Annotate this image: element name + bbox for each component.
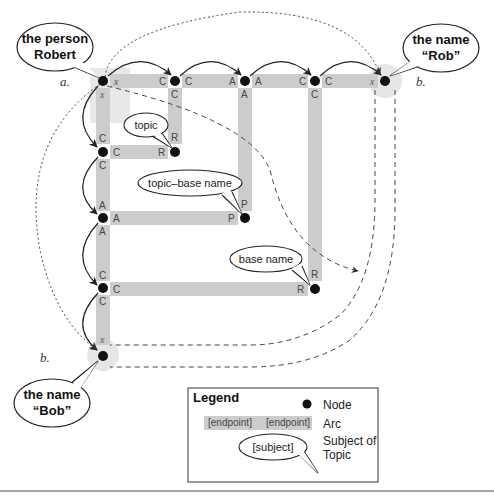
node (98, 283, 108, 293)
bubble-text: base name (239, 253, 293, 265)
label-x: x (369, 76, 375, 87)
label-R: R (158, 147, 165, 158)
legend: Legend Node [endpoint] [endpoint] Arc [s… (188, 388, 378, 482)
arc-A-P-horizontal (110, 211, 238, 225)
bubble-text: “Rob” (422, 48, 460, 63)
label-C: C (99, 270, 106, 281)
node (98, 213, 108, 223)
bubble-text: topic (134, 119, 158, 131)
bubble-text: topic–base name (148, 177, 232, 189)
label-C: C (185, 76, 192, 87)
label-A: A (99, 200, 106, 211)
node-base-name (310, 284, 320, 294)
bubble-base-name: base name (230, 246, 310, 285)
label-R: R (311, 269, 318, 280)
label-A: A (99, 226, 106, 237)
bubble-text: “Bob” (33, 403, 71, 418)
node (240, 76, 250, 86)
bubble-topic-base-name: topic–base name (138, 170, 242, 214)
label-x: x (113, 76, 119, 87)
label-C: C (99, 133, 106, 144)
node-b-rob (380, 76, 390, 86)
point-label-b-top: b. (416, 74, 426, 89)
node-b-bob (98, 351, 108, 361)
legend-arc-label: Arc (323, 417, 341, 431)
bubble-topic: topic (124, 113, 172, 148)
label-C: C (113, 147, 120, 158)
label-P: P (241, 199, 248, 210)
label-C: C (299, 76, 306, 87)
node (310, 76, 320, 86)
point-label-b-bottom: b. (40, 350, 50, 365)
label-A: A (241, 89, 248, 100)
legend-arc-right: [endpoint] (266, 417, 310, 428)
label-R: R (297, 284, 304, 295)
label-C: C (311, 89, 318, 100)
bubble-text: the person (22, 31, 89, 46)
legend-title: Legend (193, 390, 239, 405)
arc-C-R-long-vertical (308, 88, 322, 281)
label-A: A (113, 213, 120, 224)
legend-arc-left: [endpoint] (208, 417, 252, 428)
bubble-person-robert: the person Robert (17, 23, 100, 78)
bubble-name-rob: the name “Rob” (390, 24, 479, 76)
label-C: C (325, 76, 332, 87)
node-topic-base-name (240, 213, 250, 223)
label-P: P (228, 213, 235, 224)
label-C: C (99, 296, 106, 307)
bubble-name-bob: the name “Bob” (14, 361, 98, 427)
arc-C-R-long-horizontal (110, 282, 308, 296)
node (170, 76, 180, 86)
legend-node-icon (303, 400, 312, 409)
topic-map-diagram: x C C A A C C x x C C A A C C x C R C R … (0, 0, 494, 501)
label-C: C (113, 284, 120, 295)
legend-node-label: Node (323, 398, 352, 412)
bubble-text: the name (412, 32, 469, 47)
legend-subject-label-2: Topic (323, 448, 351, 462)
bubble-text: the name (23, 387, 80, 402)
label-x: x (99, 89, 105, 100)
bubble-text: Robert (34, 47, 77, 62)
legend-subject-label-1: Subject of (323, 434, 377, 448)
label-A: A (255, 76, 262, 87)
label-C: C (99, 160, 106, 171)
label-C: C (159, 76, 166, 87)
label-R: R (171, 132, 178, 143)
label-x: x (99, 334, 105, 345)
point-label-a: a. (60, 74, 70, 89)
arc-A-P-vertical (238, 88, 252, 211)
label-C: C (171, 89, 178, 100)
label-A: A (229, 76, 236, 87)
node (98, 147, 108, 157)
legend-subject-text: [subject] (253, 441, 294, 453)
node-topic (170, 147, 180, 157)
